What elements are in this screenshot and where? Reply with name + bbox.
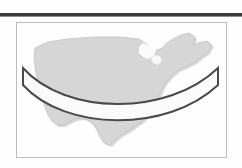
figure-frame	[16, 22, 227, 158]
figure-page	[0, 0, 242, 168]
us-map-figure	[17, 23, 228, 159]
page-top-rule	[0, 13, 242, 16]
